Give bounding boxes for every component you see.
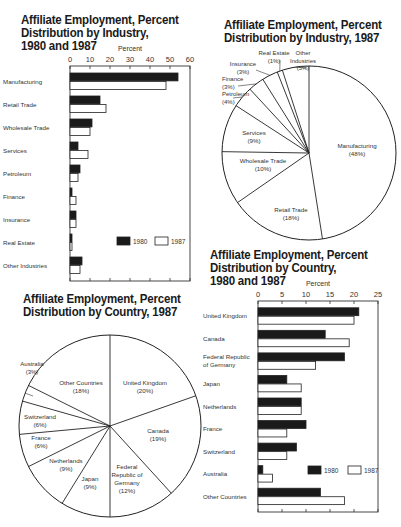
slice-label: Finance [222, 76, 244, 82]
bar-1987 [258, 452, 287, 460]
slice-label: (20%) [137, 387, 154, 394]
industry_bar-chart: Percent0102030405060ManufacturingRetail … [3, 45, 194, 281]
slice-label: (3%) [237, 69, 250, 75]
legend-label: 1987 [364, 467, 379, 474]
slice-label: (18%) [73, 387, 90, 394]
bar-1980 [258, 443, 296, 451]
category-label: Japan [203, 380, 220, 387]
bar-1980 [258, 330, 325, 338]
slice-label: (3%) [26, 369, 39, 375]
slice-label: (4%) [222, 99, 235, 105]
slice-label: Real Estate [258, 50, 290, 56]
x-tick-label: 30 [126, 55, 134, 64]
category-label: Other Countries [203, 493, 247, 500]
legend-label: 1987 [171, 238, 186, 245]
slice-label: Australia [20, 361, 44, 367]
country_pie-chart: United Kingdom(20%)Canada(19%)FederalRep… [19, 335, 201, 517]
x-tick-label: 50 [166, 55, 174, 64]
slice-label: Petroleum [222, 91, 249, 97]
bar-1987 [258, 474, 272, 482]
bar-1987 [258, 316, 354, 324]
legend-swatch-1987 [348, 466, 361, 474]
bar-1980 [258, 353, 344, 361]
slice-label: Germany [114, 479, 140, 486]
x-tick-label: 20 [106, 55, 114, 64]
country_bar-chart: Percent0510152025United KingdomCanadaFed… [203, 280, 382, 512]
x-tick-label: 10 [86, 55, 94, 64]
x-tick-label: 0 [256, 290, 260, 299]
bar-1980 [70, 142, 78, 150]
bar-1980 [70, 188, 72, 196]
slice-label: Services [242, 129, 266, 136]
charts-canvas: Percent0102030405060ManufacturingRetail … [0, 0, 401, 527]
legend-swatch-1980 [117, 237, 130, 245]
bar-1980 [70, 211, 76, 219]
x-tick-label: 0 [68, 55, 72, 64]
slice-label: (3%) [222, 84, 235, 90]
category-label: United Kingdom [203, 312, 247, 319]
category-label: Retail Trade [3, 101, 37, 108]
slice-label: (5%) [297, 65, 310, 71]
category-label: France [203, 425, 223, 432]
slice-label: Industries [290, 58, 316, 64]
slice-label: (19%) [150, 435, 167, 442]
bar-1980 [258, 398, 301, 406]
slice-label: (9%) [247, 137, 260, 144]
legend-swatch-1980 [308, 466, 321, 474]
category-label: Wholesale Trade [3, 124, 50, 131]
bar-1980 [70, 73, 178, 81]
slice-label: Netherlands [49, 457, 82, 464]
slice-label: (9%) [83, 483, 96, 490]
slice-label: Japan [82, 475, 99, 482]
bar-1980 [70, 119, 92, 127]
slice-label: Manufacturing [337, 142, 377, 149]
x-tick-label: 25 [374, 290, 382, 299]
slice-label: Republic of [112, 471, 143, 478]
bar-1980 [70, 257, 82, 265]
slice-label: Federal [117, 463, 138, 470]
legend-label: 1980 [324, 467, 339, 474]
slice-label: Other Countries [59, 379, 103, 386]
bar-1980 [70, 234, 72, 242]
bar-1987 [258, 384, 301, 392]
bar-1987 [258, 429, 287, 437]
slice-label: (6%) [34, 442, 47, 449]
bar-1987 [70, 266, 80, 274]
slice-label: (1%) [268, 58, 281, 64]
bar-1980 [258, 488, 320, 496]
bar-1980 [258, 308, 359, 316]
category-label: Federal Republic [203, 353, 250, 360]
category-label: Netherlands [203, 403, 236, 410]
x-tick-label: 40 [146, 55, 154, 64]
bar-1987 [70, 197, 76, 205]
category-label: Canada [203, 335, 225, 342]
slice-label: Switzerland [24, 413, 57, 420]
bar-1987 [258, 407, 301, 415]
x-axis-label: Percent [306, 280, 330, 287]
x-tick-label: 5 [280, 290, 284, 299]
bar-1987 [258, 497, 344, 505]
bar-1987 [70, 105, 106, 113]
category-label: Switzerland [203, 448, 236, 455]
bar-1987 [70, 220, 76, 228]
slice-label: (10%) [255, 165, 272, 172]
slice-label: (48%) [349, 150, 366, 157]
slice-label: (18%) [283, 214, 300, 221]
bar-1980 [258, 466, 263, 474]
bar-1987 [258, 339, 349, 347]
bar-1987 [70, 82, 166, 90]
category-label: Services [3, 147, 27, 154]
category-label: Manufacturing [3, 78, 43, 85]
legend-label: 1980 [133, 238, 148, 245]
x-tick-label: 60 [186, 55, 194, 64]
bar-1980 [70, 165, 80, 173]
category-label: Real Estate [3, 239, 36, 246]
x-tick-label: 15 [326, 290, 334, 299]
slice-label: Other [295, 50, 310, 56]
slice-label: (6%) [33, 421, 46, 428]
category-label: Insurance [3, 216, 31, 223]
industry_pie-chart: Manufacturing(48%)Retail Trade(18%)Whole… [222, 50, 396, 240]
bar-1987 [70, 243, 72, 251]
bar-1987 [70, 128, 90, 136]
x-axis-label: Percent [118, 45, 142, 52]
